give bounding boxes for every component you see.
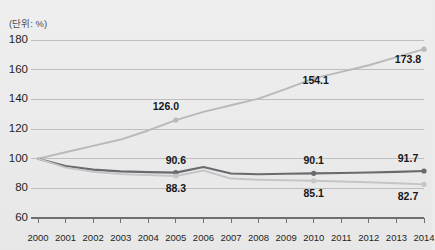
data-marker: [311, 178, 316, 183]
yaxis-tick-80: 80: [2, 181, 28, 193]
data-marker: [421, 182, 426, 187]
yaxis-tick-160: 160: [2, 63, 28, 75]
data-marker: [173, 118, 178, 123]
data-marker: [421, 47, 426, 52]
xaxis-tick-2000: 2000: [27, 232, 48, 243]
xaxis-ticks-group: [38, 218, 424, 223]
xaxis-tick-2004: 2004: [138, 232, 159, 243]
xaxis-tick-2012: 2012: [358, 232, 379, 243]
xaxis-tick-2003: 2003: [110, 232, 131, 243]
xaxis-tick-2014: 2014: [413, 232, 434, 243]
data-label-series-rising-2010: 154.1: [303, 74, 329, 86]
xaxis-tick-2011: 2011: [331, 232, 351, 243]
series-markers-group: [173, 47, 426, 187]
xaxis-tick-2001: 2001: [55, 232, 76, 243]
data-label-series-rising-2014: 173.8: [395, 53, 421, 65]
data-label-series-lower-2005: 88.3: [166, 182, 186, 194]
xaxis-tick-2008: 2008: [248, 232, 269, 243]
xaxis-tick-2013: 2013: [386, 232, 407, 243]
yaxis-tick-180: 180: [2, 33, 28, 45]
yaxis-tick-100: 100: [2, 152, 28, 164]
xaxis-tick-2005: 2005: [165, 232, 186, 243]
data-label-series-middle-2014: 91.7: [398, 152, 418, 164]
data-label-series-rising-2005: 126.0: [153, 100, 179, 112]
data-marker: [173, 173, 178, 178]
xaxis-tick-2009: 2009: [276, 232, 297, 243]
xaxis-tick-2007: 2007: [220, 232, 241, 243]
data-label-series-middle-2010: 90.1: [303, 154, 323, 166]
data-label-series-lower-2010: 85.1: [303, 187, 323, 199]
xaxis-tick-2010: 2010: [303, 232, 324, 243]
data-marker: [421, 168, 426, 173]
data-label-series-middle-2005: 90.6: [166, 154, 186, 166]
xaxis-tick-2002: 2002: [83, 232, 104, 243]
yaxis-tick-140: 140: [2, 92, 28, 104]
yaxis-tick-60: 60: [2, 211, 28, 223]
data-marker: [311, 171, 316, 176]
xaxis-tick-2006: 2006: [193, 232, 214, 243]
yaxis-tick-120: 120: [2, 122, 28, 134]
data-label-series-lower-2014: 82.7: [398, 190, 418, 202]
